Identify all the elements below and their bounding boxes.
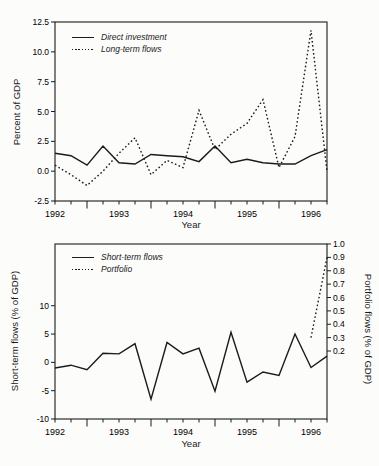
y-tick-label-right: 0.2 xyxy=(333,346,345,356)
y-tick-label-left: 0 xyxy=(44,357,49,367)
x-tick-label: 1995 xyxy=(237,209,257,219)
x-tick-label: 1996 xyxy=(301,209,321,219)
legend-item-long-term-flows: Long-term flows xyxy=(72,45,167,54)
x-tick-label: 1994 xyxy=(173,209,193,219)
y-tick-label-left: -2.5 xyxy=(34,196,49,206)
figure: 12.510.07.55.02.50.0-2.51992199319941995… xyxy=(0,0,379,466)
y-tick-label-right: 0.8 xyxy=(333,266,345,276)
legend-item-portfolio: Portfolio xyxy=(72,265,163,274)
x-tick-label: 1994 xyxy=(173,427,193,437)
legend-label: Short-term flows xyxy=(101,253,163,262)
y-tick-label-left: 2.5 xyxy=(37,136,49,146)
y-tick-label-left: 10.0 xyxy=(32,47,49,57)
legend-item-direct-investment: Direct investment xyxy=(72,33,167,42)
y-tick-label-right: 0.9 xyxy=(333,252,345,262)
y-tick-label-left: -5 xyxy=(41,386,49,396)
y-tick-label-right: 0.4 xyxy=(333,319,345,329)
x-tick-label: 1992 xyxy=(45,427,65,437)
solid-line-swatch-icon xyxy=(72,257,94,258)
legend-label: Long-term flows xyxy=(101,45,161,54)
y-tick-label-left: 5 xyxy=(44,329,49,339)
top-chart-legend: Direct investment Long-term flows xyxy=(72,33,167,54)
legend-item-short-term-flows: Short-term flows xyxy=(72,253,163,262)
y-tick-label-left: 10 xyxy=(40,301,50,311)
bottom-chart-left-y-axis-label: Short-term flows (% of GDP) xyxy=(9,271,20,391)
bottom-chart-x-axis-label: Year xyxy=(181,438,200,449)
solid-line-swatch-icon xyxy=(72,37,94,38)
top-chart-y-axis-label: Percent of GDP xyxy=(11,79,22,146)
x-tick-label: 1995 xyxy=(237,427,257,437)
x-tick-label: 1996 xyxy=(301,427,321,437)
y-tick-label-left: -10 xyxy=(37,414,50,424)
y-tick-label-left: 0.0 xyxy=(37,166,49,176)
top-chart-canvas: 12.510.07.55.02.50.0-2.51992199319941995… xyxy=(0,0,379,233)
x-tick-label: 1993 xyxy=(109,427,129,437)
y-tick-label-right: 0.3 xyxy=(333,333,345,343)
bottom-chart-legend: Short-term flows Portfolio xyxy=(72,253,163,274)
series-portfolio xyxy=(311,257,327,337)
y-tick-label-left: 12.5 xyxy=(32,17,49,27)
top-chart-x-axis-label: Year xyxy=(181,219,200,230)
x-tick-label: 1992 xyxy=(45,209,65,219)
legend-label: Direct investment xyxy=(101,33,167,42)
dotted-line-swatch-icon xyxy=(72,269,94,271)
x-tick-label: 1993 xyxy=(109,209,129,219)
y-tick-label-right: 0.5 xyxy=(333,306,345,316)
y-tick-label-right: 0.7 xyxy=(333,279,345,289)
y-tick-label-left: 7.5 xyxy=(37,77,49,87)
y-tick-label-right: 1.0 xyxy=(333,239,345,249)
legend-label: Portfolio xyxy=(101,265,132,274)
bottom-chart-canvas: 1050-5-101.00.90.80.70.60.50.40.30.21992… xyxy=(0,233,379,466)
y-tick-label-right: 0.6 xyxy=(333,293,345,303)
y-tick-label-left: 5.0 xyxy=(37,107,49,117)
series-short-term-flows xyxy=(55,332,327,399)
dotted-line-swatch-icon xyxy=(72,49,94,51)
bottom-chart-right-y-axis-label: Portfolio flows (% of GDP) xyxy=(363,274,374,384)
series-direct-investment xyxy=(55,146,327,165)
